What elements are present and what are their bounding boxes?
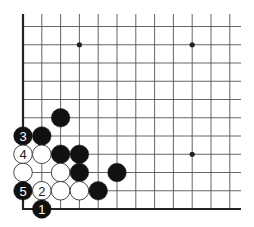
white-stone: [51, 181, 70, 200]
stone-disc: [89, 181, 108, 200]
move-number: 2: [38, 184, 45, 199]
stone-disc: [51, 181, 70, 200]
white-stone: [70, 181, 89, 200]
white-stone: [51, 163, 70, 182]
black-stone: [108, 163, 127, 182]
stone-disc: [51, 145, 70, 164]
white-stone: [33, 145, 52, 164]
black-stone-1: 1: [33, 200, 52, 219]
black-stone: [70, 145, 89, 164]
black-stone: [33, 127, 52, 146]
black-stone: [70, 163, 89, 182]
stone-disc: [70, 181, 89, 200]
stones: 34521: [14, 108, 127, 218]
go-board: 34521: [0, 0, 254, 227]
move-number: 3: [19, 129, 26, 144]
stone-disc: [51, 108, 70, 127]
white-stone: [14, 163, 33, 182]
stone-disc: [51, 163, 70, 182]
move-number: 4: [19, 147, 26, 162]
black-stone-3: 3: [14, 127, 33, 146]
stone-disc: [70, 163, 89, 182]
stone-disc: [108, 163, 127, 182]
black-stone: [51, 108, 70, 127]
move-number: 5: [19, 184, 26, 199]
stone-disc: [70, 145, 89, 164]
black-stone-5: 5: [14, 181, 33, 200]
star-point: [190, 152, 195, 157]
star-point: [190, 42, 195, 47]
black-stone: [89, 181, 108, 200]
star-point: [77, 42, 82, 47]
stone-disc: [33, 145, 52, 164]
move-number: 1: [38, 202, 45, 217]
black-stone: [51, 145, 70, 164]
stone-disc: [33, 127, 52, 146]
stone-disc: [14, 163, 33, 182]
white-stone-4: 4: [14, 145, 33, 164]
white-stone-2: 2: [33, 181, 52, 200]
